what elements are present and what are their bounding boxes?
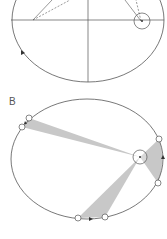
planet-position-2 <box>19 124 25 130</box>
sun-dot-a <box>141 20 143 22</box>
planet-position-3 <box>156 136 162 142</box>
planet-position-4 <box>155 180 161 186</box>
planet-position-6 <box>102 214 108 220</box>
panel-a <box>11 0 164 82</box>
focus-line-solid <box>33 0 52 20</box>
direction-arrow-bottom <box>89 217 93 221</box>
sector-bottom <box>78 157 140 218</box>
sun-dot-b <box>139 156 141 158</box>
kepler-diagram <box>0 0 167 239</box>
planet-position-5 <box>75 215 81 221</box>
focus-line-dashed <box>33 0 70 20</box>
panel-b <box>11 99 165 221</box>
planet-position-1 <box>26 115 32 121</box>
sector-left <box>22 118 140 157</box>
